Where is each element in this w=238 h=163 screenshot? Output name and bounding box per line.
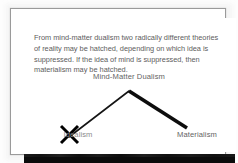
- edge-apex-to-materialism: [129, 91, 187, 128]
- edge-apex-to-idealism: [69, 91, 129, 137]
- node-label-materialism: Materialism: [162, 130, 232, 139]
- node-label-idealism: Idealism: [46, 130, 110, 139]
- cross-out-icon-stroke-b: [61, 126, 78, 143]
- figure-root: From mind-matter dualism two radically d…: [0, 0, 238, 163]
- black-bar-texture: [24, 154, 235, 157]
- figure-caption: From mind-matter dualism two radically d…: [34, 33, 226, 75]
- bottom-black-bar: [24, 154, 235, 163]
- figure-plate: From mind-matter dualism two radically d…: [10, 8, 226, 155]
- figure-card: From mind-matter dualism two radically d…: [22, 18, 236, 152]
- cross-out-icon-stroke-a: [61, 126, 78, 143]
